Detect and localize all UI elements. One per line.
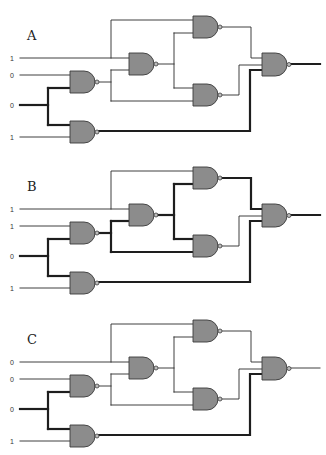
circuit-b: B1101 bbox=[10, 167, 320, 294]
nand-gate-body bbox=[193, 167, 218, 189]
nand-gate-g2 bbox=[70, 272, 99, 294]
inversion-bubble-icon bbox=[95, 130, 99, 134]
nand-gate-body bbox=[70, 222, 95, 244]
input-value-label: 1 bbox=[10, 134, 14, 141]
inversion-bubble-icon bbox=[218, 244, 222, 248]
input-value-label: 0 bbox=[10, 406, 14, 413]
wire-g4-out bbox=[222, 27, 262, 58]
nand-gate-g5 bbox=[193, 84, 222, 106]
input-value-label: 1 bbox=[10, 285, 14, 292]
nand-gate-g5 bbox=[193, 388, 222, 410]
inversion-bubble-icon bbox=[95, 281, 99, 285]
circuit-label: B bbox=[27, 179, 37, 194]
input-value-label: 1 bbox=[10, 223, 14, 230]
nand-gate-body bbox=[193, 235, 218, 257]
circuit-a: A1001 bbox=[10, 16, 320, 143]
input-value-label: 0 bbox=[10, 359, 14, 366]
inversion-bubble-icon bbox=[95, 434, 99, 438]
input-value-label: 0 bbox=[10, 376, 14, 383]
nand-gate-body bbox=[70, 272, 95, 294]
nand-gate-g6 bbox=[262, 357, 291, 380]
input-value-label: 1 bbox=[10, 206, 14, 213]
nand-gate-body bbox=[129, 357, 154, 379]
nand-gate-body bbox=[193, 84, 218, 106]
nand-gate-body bbox=[129, 53, 154, 75]
inversion-bubble-icon bbox=[154, 213, 158, 217]
input-value-label: 1 bbox=[10, 438, 14, 445]
nand-gate-body bbox=[129, 204, 154, 226]
input-value-label: 0 bbox=[10, 253, 14, 260]
nand-gate-body bbox=[70, 71, 95, 93]
nand-gate-body bbox=[262, 53, 287, 76]
inversion-bubble-icon bbox=[218, 397, 222, 401]
nand-gate-g4 bbox=[193, 16, 222, 38]
wire-in-a bbox=[111, 171, 193, 209]
nand-gate-body bbox=[193, 388, 218, 410]
inversion-bubble-icon bbox=[154, 62, 158, 66]
nand-gate-g5 bbox=[193, 235, 222, 257]
input-value-label: 0 bbox=[10, 72, 14, 79]
nand-gate-body bbox=[262, 357, 287, 380]
nand-gate-g2 bbox=[70, 121, 99, 143]
inversion-bubble-icon bbox=[95, 231, 99, 235]
nand-gate-body bbox=[193, 16, 218, 38]
wire-g2-out bbox=[99, 70, 262, 131]
nand-gate-body bbox=[193, 320, 218, 342]
nand-gate-g3 bbox=[129, 357, 158, 379]
input-value-label: 0 bbox=[10, 102, 14, 109]
logic-circuit-diagram: A1001 B1101 C0001 bbox=[0, 0, 326, 455]
inversion-bubble-icon bbox=[218, 93, 222, 97]
inversion-bubble-icon bbox=[218, 329, 222, 333]
inversion-bubble-icon bbox=[218, 25, 222, 29]
inversion-bubble-icon bbox=[154, 366, 158, 370]
inversion-bubble-icon bbox=[95, 80, 99, 84]
nand-gate-g2 bbox=[70, 425, 99, 447]
inversion-bubble-icon bbox=[287, 214, 291, 218]
inversion-bubble-icon bbox=[95, 384, 99, 388]
nand-gate-body bbox=[262, 204, 287, 227]
inversion-bubble-icon bbox=[287, 367, 291, 371]
nand-gate-g3 bbox=[129, 204, 158, 226]
nand-gate-g3 bbox=[129, 53, 158, 75]
nand-gate-body bbox=[70, 375, 95, 397]
nand-gate-body bbox=[70, 425, 95, 447]
nand-gate-g4 bbox=[193, 167, 222, 189]
circuit-c: C0001 bbox=[10, 320, 320, 447]
nand-gate-body bbox=[70, 121, 95, 143]
nand-gate-g6 bbox=[262, 204, 291, 227]
nand-gate-g1 bbox=[70, 222, 99, 244]
wire-in-a bbox=[111, 20, 193, 58]
nand-gate-g1 bbox=[70, 71, 99, 93]
nand-gate-g4 bbox=[193, 320, 222, 342]
inversion-bubble-icon bbox=[287, 63, 291, 67]
circuit-label: C bbox=[27, 332, 37, 347]
wire-g4-out bbox=[222, 178, 262, 209]
nand-gate-g1 bbox=[70, 375, 99, 397]
wire-in-a bbox=[111, 324, 193, 362]
circuit-label: A bbox=[26, 28, 37, 43]
input-value-label: 1 bbox=[10, 55, 14, 62]
wire-g2-out bbox=[99, 374, 262, 435]
nand-gate-g6 bbox=[262, 53, 291, 76]
inversion-bubble-icon bbox=[218, 176, 222, 180]
wire-g4-out bbox=[222, 331, 262, 362]
